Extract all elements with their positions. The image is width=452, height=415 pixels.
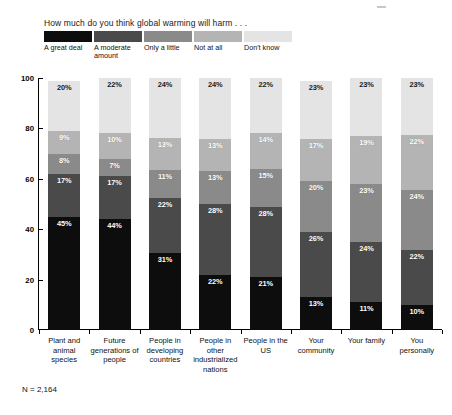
category-label: People in the US (241, 336, 291, 374)
bar-segment-value: 19% (359, 138, 374, 147)
bar-segment-value: 14% (258, 135, 273, 144)
legend-swatch-0 (44, 31, 92, 42)
bar-segment-value: 11% (158, 172, 172, 181)
bar-segment: 21% (250, 277, 282, 330)
bar-segment: 23% (350, 78, 382, 136)
x-tick-mark (291, 330, 292, 334)
legend-label-1: A moderate amount (94, 44, 142, 61)
category-label: Your family (341, 336, 391, 374)
bar-column[interactable]: 22%10%7%17%44% (89, 78, 139, 330)
bar-segment: 44% (99, 219, 131, 330)
bar-segment-value: 21% (258, 279, 273, 288)
bar-column[interactable]: 24%13%13%28%22% (190, 78, 240, 330)
bar-segment: 26% (300, 232, 332, 298)
bar-stack: 23%17%20%26%13% (300, 78, 332, 330)
category-labels: Plant and animal speciesFuture generatio… (39, 336, 442, 374)
bar-segment: 13% (149, 138, 181, 170)
bar-segment: 17% (300, 139, 332, 182)
bar-segment: 17% (48, 174, 80, 217)
bar-segment-value: 23% (359, 186, 374, 195)
bar-segment: 23% (401, 78, 433, 135)
bar-segment-value: 24% (158, 80, 173, 89)
bar-segment: 22% (99, 78, 131, 133)
bar-segment: 8% (48, 154, 80, 174)
legend-label-row: A great dealA moderate amountOnly a litt… (44, 44, 304, 61)
bar-segment: 24% (350, 242, 382, 302)
legend-swatch-3 (194, 31, 242, 42)
bar-segment: 13% (300, 297, 332, 330)
bar-segment: 17% (99, 176, 131, 219)
y-tick-label-100: 100 (8, 74, 34, 83)
x-tick-mark (89, 330, 90, 334)
bar-segment-value: 20% (57, 83, 72, 92)
bar-segment: 15% (250, 169, 282, 207)
stacked-bar-chart: How much do you think global warming wil… (0, 0, 452, 415)
bar-segment-value: 23% (309, 83, 324, 92)
bar-segment-value: 10% (107, 135, 122, 144)
bar-segment-value: 22% (410, 137, 425, 146)
legend-label-2: Only a little (144, 44, 192, 61)
legend-swatch-row (44, 31, 304, 42)
bar-segment: 20% (300, 181, 332, 231)
bar-column[interactable]: 24%13%11%22%31% (140, 78, 190, 330)
bar-segment: 45% (48, 217, 80, 330)
bar-segment: 11% (350, 302, 382, 330)
bar-segment-value: 8% (59, 156, 69, 165)
bar-segment-value: 13% (309, 299, 324, 308)
bar-segment-value: 28% (258, 209, 273, 218)
bar-segment: 9% (48, 131, 80, 154)
bar-stack: 24%13%11%22%31% (149, 78, 181, 330)
bar-stack: 23%22%24%22%10% (401, 78, 433, 330)
bar-segment: 24% (149, 78, 181, 138)
bar-segment: 23% (300, 81, 332, 139)
bar-segment: 28% (199, 204, 231, 275)
bar-segment: 19% (350, 136, 382, 184)
bar-segment: 7% (99, 159, 131, 177)
legend-label-3: Not at all (194, 44, 242, 61)
scan-artifact-mark (377, 6, 386, 8)
bar-segment-value: 13% (208, 173, 223, 182)
chart-legend: How much do you think global warming wil… (44, 18, 304, 61)
category-label: Future generations of people (89, 336, 139, 374)
bar-segment-value: 17% (57, 176, 72, 185)
y-tick-label-80: 80 (8, 124, 34, 133)
bar-column[interactable]: 23%17%20%26%13% (291, 78, 341, 330)
bar-segment-value: 22% (410, 252, 425, 261)
bar-segment-value: 22% (107, 80, 122, 89)
bar-segment-value: 17% (309, 141, 324, 150)
chart-title: How much do you think global warming wil… (44, 18, 304, 28)
x-tick-mark (39, 330, 40, 334)
bar-column[interactable]: 20%9%8%17%45% (39, 78, 89, 330)
bar-stack: 22%14%15%28%21% (250, 78, 282, 330)
y-tick-label-20: 20 (8, 275, 34, 284)
x-tick-mark (190, 330, 191, 334)
bar-segment-value: 24% (359, 244, 374, 253)
bar-segment-value: 31% (158, 255, 173, 264)
bar-segment: 23% (350, 184, 382, 242)
bar-segment-value: 10% (410, 307, 425, 316)
bar-segment-value: 24% (410, 192, 425, 201)
bar-segment: 24% (199, 78, 231, 138)
bars-container: 20%9%8%17%45%22%10%7%17%44%24%13%11%22%3… (39, 78, 442, 330)
legend-label-0: A great deal (44, 44, 92, 61)
category-label: You personally (392, 336, 442, 374)
x-axis-ticks (38, 330, 442, 334)
x-tick-mark (442, 330, 443, 334)
legend-swatch-4 (244, 31, 292, 42)
y-tick-label-60: 60 (8, 174, 34, 183)
bar-segment: 24% (401, 190, 433, 250)
bar-segment: 31% (149, 253, 181, 330)
y-tick-label-0: 0 (8, 326, 34, 335)
bar-column[interactable]: 23%22%24%22%10% (392, 78, 442, 330)
bar-segment: 10% (99, 133, 131, 158)
bar-column[interactable]: 22%14%15%28%21% (241, 78, 291, 330)
bar-segment-value: 7% (109, 161, 119, 170)
bar-segment-value: 28% (208, 206, 223, 215)
bar-segment-value: 22% (158, 200, 173, 209)
bar-stack: 20%9%8%17%45% (48, 78, 80, 330)
bar-column[interactable]: 23%19%23%24%11% (341, 78, 391, 330)
bar-segment-value: 45% (57, 219, 72, 228)
bar-segment-value: 13% (158, 140, 173, 149)
bar-stack: 23%19%23%24%11% (350, 78, 382, 330)
bar-segment: 22% (401, 250, 433, 305)
